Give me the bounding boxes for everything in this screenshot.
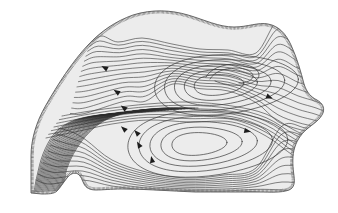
streamline-plot-canvas [0,0,338,213]
figure-root [0,0,338,213]
